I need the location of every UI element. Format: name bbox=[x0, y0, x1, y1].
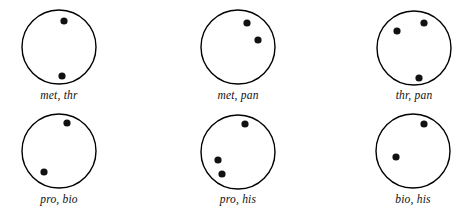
dish-outline bbox=[201, 10, 275, 84]
petri-dish-plate bbox=[160, 105, 316, 189]
panel-pro-his: pro, his bbox=[160, 105, 316, 211]
colony-dot bbox=[63, 119, 70, 126]
petri-dish-plate bbox=[0, 104, 137, 188]
colony-dot bbox=[241, 120, 248, 127]
colony-dot bbox=[254, 36, 261, 43]
dish-outline bbox=[377, 11, 451, 85]
colony-dot bbox=[214, 156, 221, 163]
plate-graphic bbox=[335, 104, 469, 198]
colony-dot bbox=[420, 19, 427, 26]
plate-graphic bbox=[0, 0, 137, 94]
plate-graphic bbox=[160, 0, 316, 94]
colony-dot bbox=[393, 27, 400, 34]
colony-dot bbox=[243, 19, 250, 26]
colony-dot bbox=[40, 168, 47, 175]
panel-bio-his: bio, his bbox=[335, 104, 469, 210]
plate-label: thr, pan bbox=[336, 89, 469, 102]
plate-graphic bbox=[0, 104, 137, 198]
plate-label: bio, his bbox=[335, 193, 469, 206]
petri-dish-plate bbox=[335, 104, 469, 188]
panel-met-pan: met, pan bbox=[160, 0, 316, 106]
panel-met-thr: met, thr bbox=[0, 0, 137, 106]
colony-dot bbox=[60, 17, 67, 24]
petri-dish-plate bbox=[336, 1, 469, 85]
dish-outline bbox=[22, 114, 96, 188]
petri-dish-plate bbox=[160, 0, 316, 84]
plate-label: pro, his bbox=[160, 193, 316, 206]
colony-dot bbox=[420, 120, 427, 127]
petri-dish-figure: met, thrmet, panthr, panpro, biopro, his… bbox=[0, 0, 469, 213]
plate-label: met, pan bbox=[160, 89, 316, 102]
colony-dot bbox=[415, 74, 422, 81]
plate-graphic bbox=[336, 1, 469, 95]
plate-graphic bbox=[160, 105, 316, 199]
colony-dot bbox=[392, 153, 399, 160]
panel-thr-pan: thr, pan bbox=[336, 1, 469, 107]
dish-outline bbox=[22, 10, 96, 84]
colony-dot bbox=[58, 72, 65, 79]
plate-label: met, thr bbox=[0, 89, 137, 102]
dish-outline bbox=[201, 115, 275, 189]
colony-dot bbox=[218, 170, 225, 177]
plate-label: pro, bio bbox=[0, 193, 137, 206]
petri-dish-plate bbox=[0, 0, 137, 84]
panel-pro-bio: pro, bio bbox=[0, 104, 137, 210]
dish-outline bbox=[376, 114, 450, 188]
